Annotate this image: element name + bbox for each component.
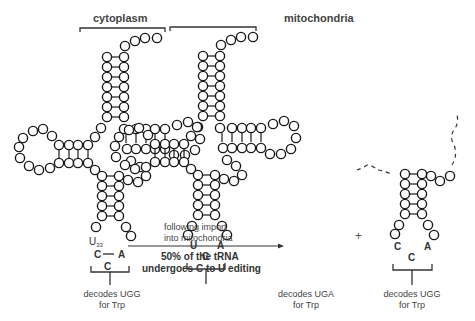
trna-mitochondria: U C A [110, 27, 300, 284]
arrow-head-icon [278, 244, 284, 249]
trna-mito-unedited: C C A [357, 112, 458, 285]
decodes-middle-line2: for Trp [276, 300, 336, 311]
unedited-nt36-label: A [424, 241, 431, 252]
decodes-middle-line1: decodes UGA [276, 289, 336, 300]
nt34-label: C [94, 249, 101, 260]
plus-sign: + [355, 229, 362, 243]
decodes-right-line1: decodes UGG [382, 289, 442, 300]
mitochondria-bracket [170, 27, 256, 31]
u33-label: U33 [89, 236, 104, 248]
decodes-middle: decodes UGA for Trp [276, 289, 336, 311]
cytoplasm-title: cytoplasm [93, 12, 147, 24]
decodes-left-line2: for Trp [82, 300, 142, 311]
decodes-right: decodes UGG for Trp [382, 289, 442, 311]
arrow-caption-1: following import [164, 222, 227, 232]
nt36-label: A [118, 249, 125, 260]
mitochondria-title: mitochondria [284, 12, 354, 24]
editing-note-2: undergoes C to U editing [142, 263, 261, 274]
decodes-right-line2: for Trp [382, 300, 442, 311]
unedited-anticodon-bracket [393, 264, 432, 285]
cytoplasm-bracket [80, 28, 165, 32]
unedited-nt35-label: C [408, 252, 415, 263]
arrow-caption-2: into mitochondria [164, 233, 233, 243]
decodes-left: decodes UGG for Trp [82, 289, 142, 311]
nt35-label: C [104, 261, 111, 272]
decodes-left-line1: decodes UGG [82, 289, 142, 300]
unedited-nt34-label: C [394, 241, 401, 252]
editing-note-1: 50% of the tRNA [161, 251, 239, 262]
